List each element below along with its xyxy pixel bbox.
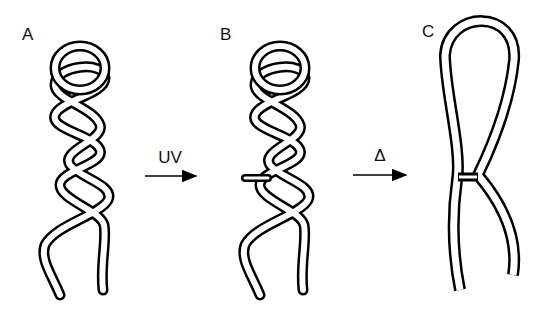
strand-c [445,21,514,290]
strand-b [244,46,309,295]
diagram-canvas [0,0,547,309]
strand-a [44,46,109,295]
